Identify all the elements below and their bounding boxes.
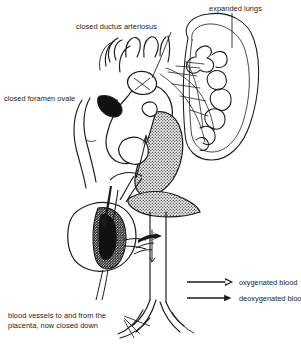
label-closed-ductus-arteriosus: closed ductus arteriosus [76,22,157,32]
diagram-canvas: closed ductus arteriosus expanded lungs … [0,0,301,346]
label-expanded-lungs: expanded lungs [209,4,262,14]
aortic-arch-group [99,36,169,72]
legend-label-deoxygenated: deoxygenated blood [236,294,301,303]
solid-arrow-icon [186,292,236,304]
legend-item-oxygenated: oxygenated blood [186,274,301,290]
legend-label-oxygenated: oxygenated blood [236,278,297,287]
label-placenta-vessels: blood vessels to and from the placenta, … [8,311,136,330]
legend: oxygenated blood deoxygenated blood [186,274,301,306]
open-arrow-icon [186,276,236,288]
closed-foramen-ovale-mark [98,95,122,117]
liver-group [68,176,146,300]
leader-ductus [152,32,171,78]
legend-item-deoxygenated: deoxygenated blood [186,290,301,306]
heart-group [98,71,200,216]
label-closed-foramen-ovale: closed foramen ovale [4,94,75,104]
